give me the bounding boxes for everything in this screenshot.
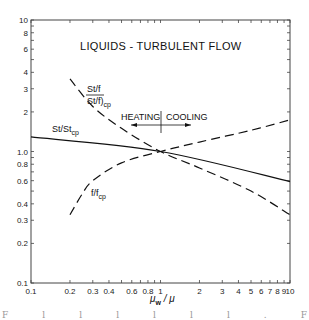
label-f-fcp: f/fcp [91, 188, 106, 201]
stf-numerator: St/f [87, 84, 101, 94]
cooling-label: COOLING [166, 112, 208, 122]
y-tick-label: 3 [24, 85, 29, 94]
x-axis-label: μw / μ [149, 293, 175, 306]
y-tick-label: 1.0 [17, 148, 29, 157]
y-tick-label: 10 [19, 16, 28, 25]
y-tick-label: 4 [24, 68, 29, 77]
y-axis-ticks: 0.10.20.30.40.60.81.02346810 [17, 16, 290, 288]
label-st-stcp: St/Stcp [52, 124, 79, 137]
x-tick-label: 0.4 [103, 287, 115, 296]
x-tick-label: 3 [220, 287, 225, 296]
chart-title: LIQUIDS - TURBULENT FLOW [80, 40, 242, 52]
x-tick-label: 7 [268, 287, 273, 296]
x-tick-label: 0.3 [87, 287, 99, 296]
heating-label: HEATING [121, 112, 160, 122]
x-tick-label: 0.1 [25, 287, 37, 296]
y-tick-label: 2 [24, 108, 29, 117]
data-series [31, 79, 290, 215]
y-tick-label: 0.1 [17, 279, 29, 288]
chart: 0.10.20.30.40.60.812345678910 0.10.20.30… [0, 0, 309, 320]
x-tick-label: 10 [286, 287, 295, 296]
x-tick-label: 8 [275, 287, 280, 296]
stf-denominator: St/f)cp [87, 96, 111, 109]
y-tick-label: 0.3 [17, 216, 29, 225]
x-tick-label: 0.6 [126, 287, 138, 296]
x-tick-label: 0.2 [64, 287, 76, 296]
y-tick-label: 0.8 [17, 160, 29, 169]
x-tick-label: 4 [236, 287, 241, 296]
caption-fragment: F l l l l l l . F [2, 310, 307, 320]
x-tick-label: 2 [197, 287, 202, 296]
y-tick-label: 0.2 [17, 239, 29, 248]
y-tick-label: 0.6 [17, 177, 29, 186]
y-tick-label: 8 [24, 29, 29, 38]
y-tick-label: 0.4 [17, 200, 29, 209]
x-tick-label: 6 [259, 287, 264, 296]
label-stf-ratio: St/f St/f)cp [86, 84, 111, 109]
heating-cooling-annotation: HEATING COOLING [121, 111, 208, 133]
series-line [31, 137, 290, 182]
series-line [70, 120, 290, 215]
y-tick-label: 6 [24, 45, 29, 54]
x-axis-ticks: 0.10.20.30.40.60.812345678910 [25, 20, 295, 296]
x-tick-label: 5 [249, 287, 254, 296]
